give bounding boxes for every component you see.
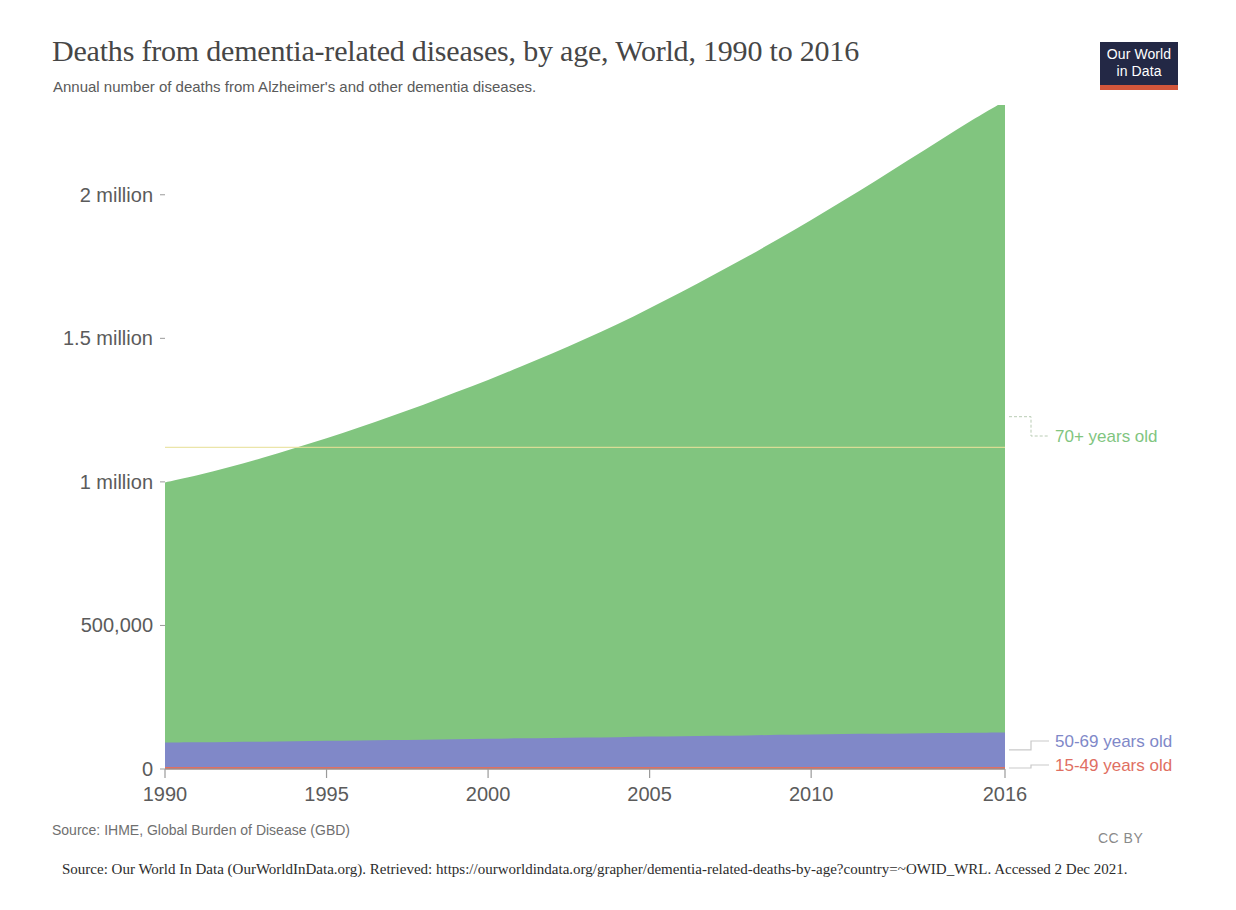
chart-page: Deaths from dementia-related diseases, b…	[0, 0, 1236, 910]
legend-leader-line	[1009, 765, 1049, 768]
logo-line-1: Our World	[1100, 46, 1178, 63]
source-note: Source: IHME, Global Burden of Disease (…	[52, 822, 350, 838]
x-axis-tick-label: 2005	[627, 783, 672, 805]
our-world-in-data-logo[interactable]: Our World in Data	[1100, 42, 1178, 90]
legend-label-1[interactable]: 15-49 years old	[1055, 756, 1172, 775]
y-axis-tick-label: 0	[142, 758, 153, 780]
citation-note: Source: Our World In Data (OurWorldInDat…	[62, 858, 1152, 880]
x-axis-tick-label: 1995	[304, 783, 349, 805]
logo-line-2: in Data	[1100, 63, 1178, 80]
y-axis-tick-label: 1 million	[80, 471, 153, 493]
legend-leader-line	[1009, 741, 1049, 750]
legend-label-3[interactable]: 70+ years old	[1055, 427, 1158, 446]
license-note: CC BY	[1098, 830, 1143, 846]
legend-label-2[interactable]: 50-69 years old	[1055, 732, 1172, 751]
page-subtitle: Annual number of deaths from Alzheimer's…	[53, 78, 536, 95]
chart-area: 0500,0001 million1.5 million2 million199…	[0, 105, 1236, 805]
page-title: Deaths from dementia-related diseases, b…	[52, 34, 859, 68]
y-axis-tick-label: 1.5 million	[63, 327, 153, 349]
y-axis-tick-label: 2 million	[80, 184, 153, 206]
y-axis-tick-label: 500,000	[81, 614, 153, 636]
x-axis-tick-label: 1990	[143, 783, 188, 805]
x-axis-tick-label: 2010	[789, 783, 834, 805]
x-axis-tick-label: 2000	[466, 783, 511, 805]
x-axis-tick-label: 2016	[983, 783, 1028, 805]
area-series-3[interactable]	[165, 105, 1005, 769]
stacked-area-chart[interactable]: 0500,0001 million1.5 million2 million199…	[0, 105, 1236, 805]
legend-leader-line	[1009, 417, 1049, 436]
